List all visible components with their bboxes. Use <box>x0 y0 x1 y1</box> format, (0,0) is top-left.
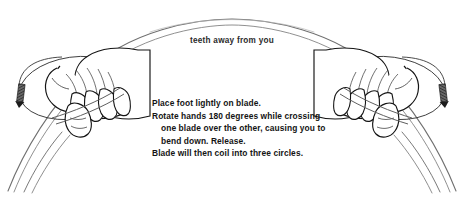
instruction-line-1: Place foot lightly on blade. <box>152 97 328 110</box>
instruction-diagram-page: teeth away from you Place foot lightly o… <box>0 0 464 219</box>
instruction-line-5: Blade will then coil into three circles. <box>152 147 328 160</box>
blade-direction-caption: teeth away from you <box>0 36 464 45</box>
instruction-text-block: Place foot lightly on blade. Rotate hand… <box>152 97 328 160</box>
instruction-line-2: Rotate hands 180 degrees while crossing <box>152 110 328 123</box>
instruction-line-4: bend down. Release. <box>152 135 328 148</box>
instruction-line-3: one blade over the other, causing you to <box>152 122 328 135</box>
